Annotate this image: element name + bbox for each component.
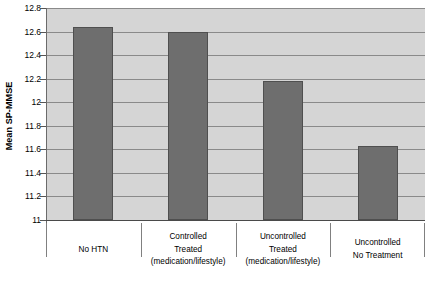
x-axis-category-label-line: (medication/lifestyle): [246, 256, 321, 269]
x-axis-category-label-line: (medication/lifestyle): [151, 256, 226, 269]
bar: [168, 32, 208, 220]
x-axis-category-label-line: Uncontrolled: [355, 237, 401, 250]
y-axis-tick-label: 11.8: [25, 122, 41, 131]
y-axis-tick-label: 11.6: [25, 145, 41, 154]
x-axis-category-label-line: No Treatment: [353, 250, 403, 263]
x-axis-category-label: UncontrolledTreated(medication/lifestyle…: [236, 221, 331, 279]
bar-chart: Mean SP-MMSE 12.812.612.412.21211.811.61…: [0, 0, 431, 281]
x-axis-category-label-line: Controlled: [169, 231, 206, 244]
y-axis-title: Mean SP-MMSE: [0, 0, 18, 232]
x-axis-category-label: UncontrolledNo Treatment: [330, 221, 425, 279]
gridline: [46, 8, 425, 9]
y-axis-tick-label: 12.4: [24, 51, 41, 60]
category-divider: [46, 223, 47, 257]
x-axis-category-label-line: Treated: [174, 244, 202, 257]
y-axis-line: [46, 8, 47, 233]
x-axis-category-label: ControlledTreated(medication/lifestyle): [141, 221, 236, 279]
category-divider: [424, 223, 425, 257]
x-axis-category-label-line: Uncontrolled: [260, 231, 306, 244]
y-axis-tick-label: 11.2: [25, 192, 41, 201]
y-axis-title-text: Mean SP-MMSE: [4, 82, 14, 151]
y-axis-tick-label: 12.2: [24, 74, 41, 83]
bar: [263, 81, 303, 220]
category-divider: [236, 223, 237, 257]
y-axis-tick-label: 11.4: [25, 169, 41, 178]
x-axis-category-label-line: No HTN: [79, 244, 109, 257]
y-axis-tick-label: 12.8: [24, 4, 41, 13]
x-axis-category-labels: No HTNControlledTreated(medication/lifes…: [46, 221, 425, 281]
bar: [73, 27, 113, 220]
category-divider: [330, 223, 331, 257]
category-divider: [141, 223, 142, 257]
x-axis-category-label-line: Treated: [269, 244, 297, 257]
x-axis-category-label: No HTN: [46, 221, 141, 279]
bar: [358, 146, 398, 220]
y-axis-tick-label: 12.6: [24, 27, 41, 36]
